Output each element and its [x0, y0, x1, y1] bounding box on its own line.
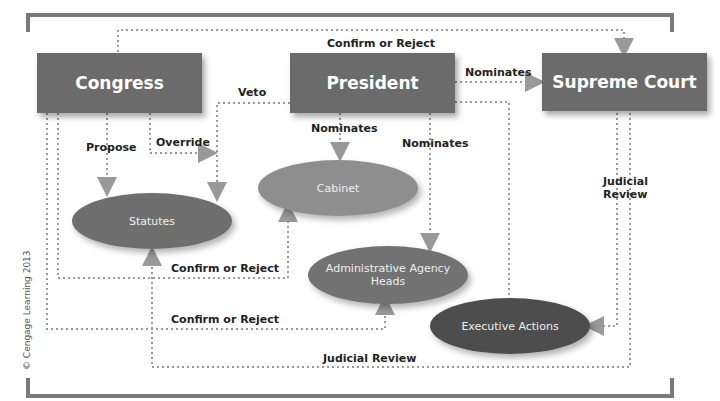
executive-actions-node: Executive Actions: [430, 298, 590, 354]
admin-heads-node: Administrative Agency Heads: [308, 246, 468, 304]
label-veto: Veto: [238, 86, 266, 99]
label-confirm-reject-cabinet: Confirm or Reject: [171, 262, 279, 275]
label-nominates-cabinet: Nominates: [311, 122, 378, 135]
label-confirm-reject-admin: Confirm or Reject: [171, 313, 279, 326]
copyright-text: © Cengage Learning 2013: [22, 240, 32, 370]
label-confirm-reject-top: Confirm or Reject: [327, 37, 435, 50]
label-propose: Propose: [86, 141, 136, 154]
label-judicial-review-bottom: Judicial Review: [323, 352, 416, 365]
cabinet-node: Cabinet: [258, 160, 418, 216]
president-node: President: [290, 53, 455, 113]
statutes-node: Statutes: [72, 193, 232, 249]
supreme-court-node: Supreme Court: [542, 53, 707, 111]
label-nominates-sc: Nominates: [465, 66, 532, 79]
label-nominates-admin: Nominates: [402, 137, 469, 150]
label-override: Override: [156, 136, 210, 149]
label-judicial-review-right: Judicial Review: [603, 175, 643, 201]
congress-node: Congress: [37, 53, 202, 113]
